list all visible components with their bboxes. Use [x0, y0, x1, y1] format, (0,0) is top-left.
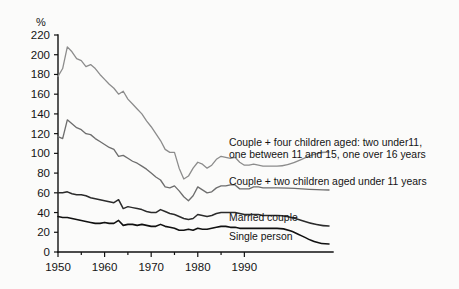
y-tick-label-40: 40 — [37, 207, 50, 219]
legend-label-couple-two-children: Couple + two children aged under 11 year… — [229, 176, 427, 187]
legend-label-couple-four-children-line2: one between 11 and 15, one over 16 years — [229, 149, 426, 160]
y-tick-label-160: 160 — [31, 88, 50, 100]
legend-label-couple-four-children-line1: Couple + four children aged: two under11… — [229, 137, 422, 148]
y-axis-tick-labels: 020406080100120140160180200220 — [31, 29, 50, 258]
y-tick-label-200: 200 — [31, 49, 50, 61]
legend-label-single-person: Single person — [229, 231, 293, 242]
x-tick-label-1970: 1970 — [138, 261, 164, 273]
chart-container: % 020406080100120140160180200220 1950196… — [0, 0, 459, 289]
y-tick-label-0: 0 — [44, 246, 50, 258]
x-axis-ticks — [58, 252, 244, 257]
x-tick-label-1960: 1960 — [92, 261, 118, 273]
legend-label-married-couple: Married couple — [229, 212, 298, 223]
y-tick-label-80: 80 — [37, 167, 50, 179]
x-tick-label-1950: 1950 — [45, 261, 71, 273]
series-line-1 — [58, 120, 329, 201]
y-axis-unit-label: % — [36, 16, 46, 28]
y-tick-label-120: 120 — [31, 128, 50, 140]
x-axis-tick-labels: 19501960197019801990 — [45, 261, 257, 273]
line-chart: % 020406080100120140160180200220 1950196… — [0, 0, 459, 289]
y-tick-label-220: 220 — [31, 29, 50, 41]
x-tick-label-1980: 1980 — [185, 261, 211, 273]
y-tick-label-140: 140 — [31, 108, 50, 120]
y-tick-label-60: 60 — [37, 187, 50, 199]
y-tick-label-20: 20 — [37, 226, 50, 238]
y-tick-label-180: 180 — [31, 68, 50, 80]
x-tick-label-1990: 1990 — [232, 261, 258, 273]
y-tick-label-100: 100 — [31, 147, 50, 159]
